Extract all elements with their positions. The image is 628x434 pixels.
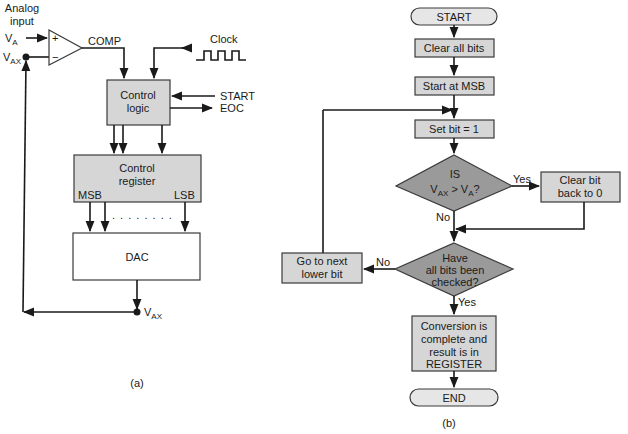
clear-bit-label-line1: Clear bit [560,174,601,186]
bit-lines-ellipsis: . . . . . . . . [112,209,173,221]
start-terminal-label: START [436,11,471,23]
clock-to-control-logic-arrow [154,48,188,78]
comparator-plus: + [52,32,58,44]
decision1-line1: IS [450,168,460,180]
lsb-label: LSB [174,189,195,201]
comp-to-control-logic-arrow [82,48,124,78]
vax-output-label: VAX [144,306,163,321]
caption-b: (b) [442,417,455,429]
decision1-no-label: No [436,211,450,223]
decision2-yes-label: Yes [458,296,476,308]
analog-input-label-line1: Analog [5,2,39,14]
analog-input-label-line2: input [10,15,34,27]
decision1-yes-label: Yes [513,173,531,185]
decision2-no-label: No [376,256,390,268]
decision2-line3: checked? [431,276,478,288]
comparator-minus: − [52,51,58,63]
clock-label: Clock [210,33,238,45]
result-label-line4: REGISTER [426,358,482,370]
feedback-line-vertical [23,61,26,312]
next-lower-bit-label-line2: lower bit [302,268,343,280]
control-register-label-line1: Control [119,162,154,174]
result-label-line1: Conversion is [421,320,488,332]
result-label-line3: result is in [429,346,479,358]
clear-all-bits-label: Clear all bits [424,42,485,54]
vax-input-label: VAX [3,51,22,66]
msb-label: MSB [78,189,102,201]
control-logic-label-line1: Control [120,89,155,101]
diagram-canvas: Analog input VA VAX + − COMP Clock Contr… [0,0,628,434]
start-label: START [220,90,255,102]
va-label: VA [5,32,18,47]
clock-waveform-icon [196,51,246,60]
sar-flowchart: START Clear all bits Start at MSB Set bi… [282,8,620,429]
end-terminal-label: END [442,392,465,404]
next-lower-bit-label-line1: Go to next [297,255,348,267]
clear-bit-return-arrow [456,202,584,229]
start-at-msb-label: Start at MSB [423,80,485,92]
decision2-line1: Have [442,252,468,264]
eoc-label: EOC [220,102,244,114]
clear-bit-label-line2: back to 0 [558,187,603,199]
control-logic-label-line2: logic [127,102,150,114]
set-bit-label: Set bit = 1 [429,123,479,135]
control-register-label-line2: register [119,175,156,187]
sar-adc-block-diagram: Analog input VA VAX + − COMP Clock Contr… [3,2,255,389]
comp-label: COMP [88,35,121,47]
dac-label: DAC [125,251,148,263]
decision2-line2: all bits been [426,264,485,276]
caption-a: (a) [130,377,143,389]
result-label-line2: complete and [421,333,487,345]
